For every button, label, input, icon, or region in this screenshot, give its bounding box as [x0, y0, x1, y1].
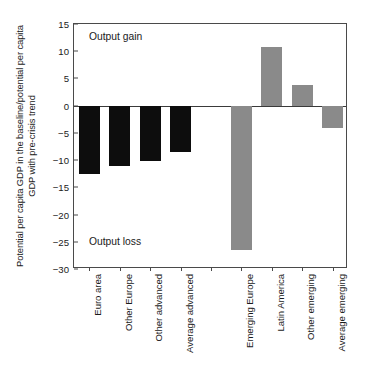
- figure-caption: [10, 369, 170, 380]
- x-axis-label-other-europe: Other Europe: [123, 274, 134, 331]
- y-tick-mark: [74, 214, 78, 215]
- x-axis-label-average-advanced: Average advanced: [184, 274, 195, 353]
- annotation-output-loss: Output loss: [89, 236, 141, 247]
- y-tick-mark: [74, 241, 78, 242]
- bar: [140, 106, 161, 162]
- y-axis-title: Potential per capita GDP in the baseline…: [14, 22, 44, 270]
- y-tick-mark: [74, 105, 78, 106]
- y-tick-mark: [74, 160, 78, 161]
- y-tick-mark: [74, 78, 78, 79]
- y-tick-label: 5: [29, 73, 69, 84]
- bar: [109, 106, 130, 166]
- x-axis-label-euro-area: Euro area: [92, 274, 103, 316]
- x-tick-mark: [272, 267, 273, 271]
- y-tick-label: 15: [29, 19, 69, 30]
- x-tick-mark: [89, 267, 90, 271]
- y-tick-label: −25: [29, 236, 69, 247]
- bar: [231, 106, 252, 250]
- x-tick-mark: [211, 267, 212, 271]
- plot-area: 151050−5−10−15−20−25−30 Output gain Outp…: [73, 23, 347, 268]
- bar: [292, 85, 313, 106]
- x-axis-label-latin-america: Latin America: [275, 274, 286, 331]
- x-tick-mark: [333, 267, 334, 271]
- y-tick-mark: [74, 132, 78, 133]
- bar: [261, 47, 282, 105]
- y-tick-mark: [74, 269, 78, 270]
- y-tick-label: 10: [29, 46, 69, 57]
- x-axis-label-other-advanced: Other advanced: [153, 274, 164, 342]
- bar: [322, 106, 343, 128]
- y-tick-mark: [74, 24, 78, 25]
- x-axis-label-other-emerging: Other emerging: [305, 274, 316, 340]
- x-tick-mark: [150, 267, 151, 271]
- x-axis-label-emerging-europe: Emerging Europe: [244, 274, 255, 348]
- x-tick-mark: [302, 267, 303, 271]
- chart-figure: Potential per capita GDP in the baseline…: [0, 0, 375, 380]
- x-tick-mark: [181, 267, 182, 271]
- y-tick-label: −15: [29, 182, 69, 193]
- y-tick-mark: [74, 51, 78, 52]
- y-tick-label: −30: [29, 264, 69, 275]
- bar: [170, 106, 191, 152]
- x-axis-label-average-emerging: Average emerging: [336, 274, 347, 351]
- annotation-output-gain: Output gain: [89, 31, 142, 42]
- x-tick-mark: [241, 267, 242, 271]
- y-tick-mark: [74, 187, 78, 188]
- x-tick-mark: [120, 267, 121, 271]
- y-tick-label: −5: [29, 127, 69, 138]
- y-tick-label: 0: [29, 100, 69, 111]
- y-tick-label: −10: [29, 155, 69, 166]
- bar: [79, 106, 100, 175]
- y-tick-label: −20: [29, 209, 69, 220]
